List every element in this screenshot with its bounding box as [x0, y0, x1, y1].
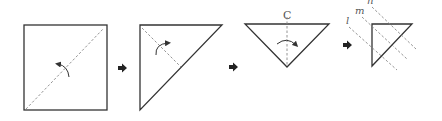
line-m-label: m [355, 5, 364, 16]
step-1-square [24, 25, 107, 110]
line-l-label: l [346, 15, 349, 26]
next-arrow-icon [229, 63, 238, 72]
cut-line-l [349, 27, 397, 70]
center-label: C [283, 9, 291, 22]
folding-diagram: C l m n [0, 0, 442, 121]
fold-arrow-icon [277, 40, 296, 45]
step-4-cut-lines: l m n [346, 0, 416, 70]
step-3-inverted-triangle: C [245, 9, 329, 67]
step-2-triangle [140, 25, 222, 110]
next-arrow-icon [343, 41, 352, 50]
fold-arrow-icon [156, 43, 168, 55]
line-n-label: n [367, 0, 373, 6]
next-arrow-icon [118, 64, 127, 73]
